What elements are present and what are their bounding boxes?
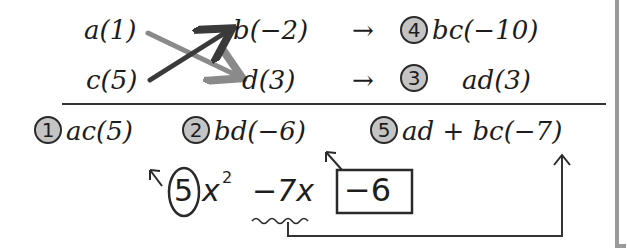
x-squared: x [202,176,220,206]
term-d: d(3) [242,67,295,93]
arrow-to-1 [150,170,162,186]
coef-5: 5 [174,176,193,206]
term-a: a(1) [84,17,136,43]
constant-term: −6 [344,174,391,206]
result-ad: ad(3) [462,67,531,93]
badge-4: 4 [400,16,428,44]
frame-bar [617,0,626,246]
arrow-to-2 [326,152,342,170]
arrow-glyph-top: → [352,17,374,43]
result-bc: bc(−10) [432,17,538,43]
middle-term: −7x [252,176,314,206]
result-ac: ac(5) [66,118,133,144]
badge-5: 5 [370,116,398,144]
badge-1: 1 [34,116,62,144]
term-c: c(5) [86,67,137,93]
result-sum: ad + bc(−7) [402,118,562,144]
term-b: b(−2) [233,17,308,43]
badge-2: 2 [182,116,210,144]
arrow-glyph-bottom: → [352,67,374,93]
wave-underline [252,219,308,224]
exponent-2: 2 [222,170,232,186]
badge-3: 3 [400,64,428,92]
result-bd: bd(−6) [214,118,306,144]
connector-line [288,156,562,236]
